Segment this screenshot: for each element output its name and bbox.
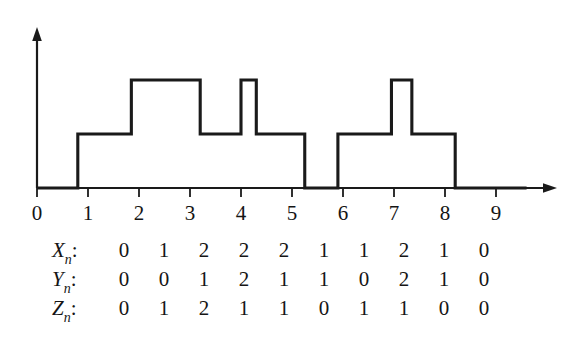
step-function-figure: 0123456789 Xn:0122211210Yn:0012110210Zn:… (0, 0, 579, 348)
table-row: Xn:0122211210 (52, 238, 472, 267)
cell-y-4: 1 (264, 269, 304, 290)
x-tick-label-8: 8 (433, 203, 457, 224)
row-label-x: Xn: (52, 238, 104, 266)
cell-y-1: 0 (144, 269, 184, 290)
x-tick-label-3: 3 (178, 203, 202, 224)
cell-z-8: 0 (424, 298, 464, 319)
cell-y-6: 0 (344, 269, 384, 290)
cell-x-9: 0 (464, 240, 504, 261)
cell-y-7: 2 (384, 269, 424, 290)
cell-y-8: 1 (424, 269, 464, 290)
cell-z-4: 1 (264, 298, 304, 319)
x-tick-label-7: 7 (382, 203, 406, 224)
cell-z-9: 0 (464, 298, 504, 319)
x-tick-label-2: 2 (127, 203, 151, 224)
cell-y-3: 2 (224, 269, 264, 290)
x-tick-label-6: 6 (331, 203, 355, 224)
row-values: 0122211210 (104, 240, 504, 261)
cell-z-5: 0 (304, 298, 344, 319)
row-label-z: Zn: (52, 296, 104, 324)
cell-x-6: 1 (344, 240, 384, 261)
table-row: Yn:0012110210 (52, 267, 472, 296)
x-tick-label-1: 1 (76, 203, 100, 224)
cell-z-7: 1 (384, 298, 424, 319)
cell-y-9: 0 (464, 269, 504, 290)
cell-x-3: 2 (224, 240, 264, 261)
x-tick-label-9: 9 (484, 203, 508, 224)
row-label-y: Yn: (52, 267, 104, 295)
cell-x-5: 1 (304, 240, 344, 261)
cell-x-1: 1 (144, 240, 184, 261)
cell-x-4: 2 (264, 240, 304, 261)
x-tick-label-5: 5 (280, 203, 304, 224)
cell-x-8: 1 (424, 240, 464, 261)
cell-z-3: 1 (224, 298, 264, 319)
cell-z-6: 1 (344, 298, 384, 319)
x-axis-ticks (37, 188, 496, 197)
step-function-trace (37, 80, 527, 188)
x-tick-label-0: 0 (25, 203, 49, 224)
cell-x-0: 0 (104, 240, 144, 261)
cell-z-2: 2 (184, 298, 224, 319)
row-values: 0012110210 (104, 269, 504, 290)
y-axis (32, 27, 42, 188)
cell-y-5: 1 (304, 269, 344, 290)
cell-y-2: 1 (184, 269, 224, 290)
x-tick-label-4: 4 (229, 203, 253, 224)
sequence-table: Xn:0122211210Yn:0012110210Zn:0121101100 (52, 238, 472, 325)
table-row: Zn:0121101100 (52, 296, 472, 325)
cell-x-2: 2 (184, 240, 224, 261)
row-values: 0121101100 (104, 298, 504, 319)
cell-y-0: 0 (104, 269, 144, 290)
cell-z-0: 0 (104, 298, 144, 319)
cell-z-1: 1 (144, 298, 184, 319)
cell-x-7: 2 (384, 240, 424, 261)
